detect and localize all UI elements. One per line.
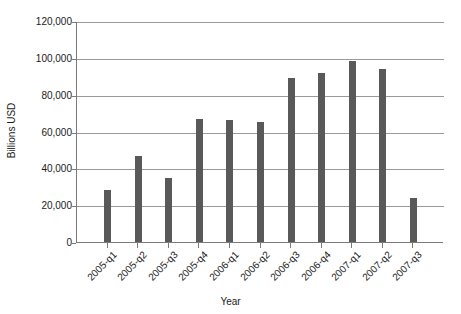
x-axis-tick-label: 2007-q2 <box>358 249 394 285</box>
x-axis-tick-label: 2007-q3 <box>388 249 424 285</box>
bar <box>196 119 203 242</box>
x-axis-tick-label: 2006-q1 <box>205 249 241 285</box>
bar <box>257 122 264 242</box>
bar <box>318 73 325 242</box>
x-axis-tick-label: 2006-q2 <box>235 249 271 285</box>
x-axis-tick-mark <box>321 243 322 248</box>
y-axis-tick-marks <box>0 22 80 243</box>
x-axis-tick-label: 2005-q1 <box>82 249 118 285</box>
x-axis-tick-mark <box>290 243 291 248</box>
bar <box>349 61 356 242</box>
bar <box>226 120 233 242</box>
gridline <box>77 59 444 60</box>
x-axis-tick-mark <box>412 243 413 248</box>
x-axis-tick-mark <box>137 243 138 248</box>
x-axis-tick-mark <box>260 243 261 248</box>
bar <box>135 156 142 242</box>
plot-area <box>76 22 443 243</box>
x-axis-tick-mark <box>168 243 169 248</box>
x-axis-tick-label: 2007-q1 <box>327 249 363 285</box>
x-axis-tick-labels: 2005-q12005-q22005-q32005-q42006-q12006-… <box>76 249 443 295</box>
bar <box>288 78 295 242</box>
x-axis-tick-label: 2006-q3 <box>266 249 302 285</box>
x-axis-tick-label: 2005-q2 <box>113 249 149 285</box>
bar <box>379 69 386 242</box>
x-axis-tick-label: 2005-q3 <box>143 249 179 285</box>
bar <box>104 190 111 242</box>
x-axis-tick-mark <box>382 243 383 248</box>
bar <box>165 178 172 242</box>
gridline <box>77 96 444 97</box>
x-axis-tick-mark <box>229 243 230 248</box>
x-axis-tick-label: 2005-q4 <box>174 249 210 285</box>
bar-chart: Billions USD 020,00040,00060,00080,00010… <box>0 0 461 314</box>
x-axis-tick-mark <box>351 243 352 248</box>
x-axis-tick-mark <box>198 243 199 248</box>
x-axis-tick-mark <box>107 243 108 248</box>
bar <box>410 198 417 242</box>
x-axis-tick-label: 2006-q4 <box>296 249 332 285</box>
gridline <box>77 22 444 23</box>
x-axis-title: Year <box>0 296 461 307</box>
